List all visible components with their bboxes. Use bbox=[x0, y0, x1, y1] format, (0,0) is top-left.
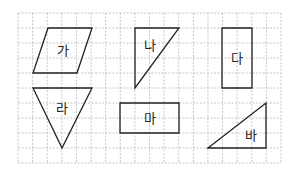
label-ra: 라 bbox=[56, 101, 68, 116]
label-da: 다 bbox=[231, 51, 243, 66]
label-ga: 가 bbox=[57, 43, 69, 58]
label-ba: 바 bbox=[245, 128, 257, 143]
label-na: 나 bbox=[144, 38, 156, 53]
figure-canvas: 가 나 다 라 마 바 bbox=[0, 0, 289, 171]
shape-ba-right-triangle bbox=[208, 103, 266, 148]
label-ma: 마 bbox=[144, 111, 156, 126]
shape-ra-triangle bbox=[33, 88, 92, 148]
